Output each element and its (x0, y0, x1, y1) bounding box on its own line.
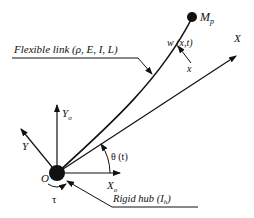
position-label: x (186, 63, 192, 74)
axis-yo-label: Yo (62, 107, 72, 122)
torque-label: τ (52, 193, 57, 205)
axis-xo-label: Xo (106, 179, 118, 194)
deflection-label: w (x,t) (167, 37, 193, 49)
origin-label: O (41, 172, 49, 184)
axis-x (57, 56, 236, 173)
deflection-arrow (178, 46, 191, 63)
torque-arc (48, 184, 66, 187)
flexible-link-label: Flexible link (ρ, E, I, L) (13, 43, 118, 56)
angle-arc (101, 144, 110, 173)
angle-label: θ (t) (111, 151, 128, 163)
flexible-link-leader (12, 58, 152, 74)
payload-mass (187, 12, 197, 22)
rigid-hub (49, 165, 65, 181)
axis-x-label: X (233, 32, 242, 44)
payload-label: Mp (199, 10, 214, 26)
flexible-link-diagram: Flexible link (ρ, E, I, L) Mp w (x,t) x … (0, 0, 254, 218)
rigid-hub-label: Rigid hub (Ih) (112, 193, 171, 206)
axis-y-label: Y (22, 140, 30, 152)
